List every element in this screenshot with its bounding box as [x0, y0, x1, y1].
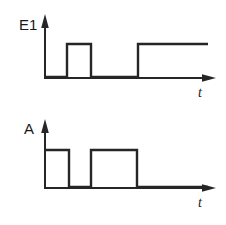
right-arrow-axis-icon: [202, 74, 216, 82]
a-waveform: [45, 150, 208, 187]
up-arrow-axis-icon: [41, 14, 49, 28]
e1-waveform: [45, 44, 208, 77]
time-axis-label-e1: t: [198, 85, 203, 100]
up-arrow-axis-icon: [41, 119, 49, 133]
signal-label-e1: E1: [19, 16, 37, 33]
signal-label-a: A: [24, 120, 34, 137]
panel-e1: E1 t: [19, 14, 216, 100]
time-axis-label-a: t: [198, 195, 203, 210]
panel-a: A t: [24, 119, 216, 210]
timing-diagram-figure: E1 t A t: [0, 0, 226, 225]
